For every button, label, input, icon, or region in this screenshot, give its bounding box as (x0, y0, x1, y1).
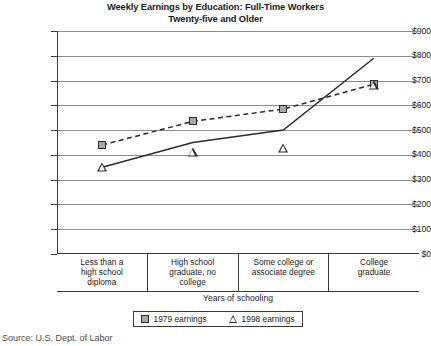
source-note: Source: U.S. Dept. of Labor (2, 333, 113, 343)
x-axis-category-label: Some college orassociate degree (252, 257, 315, 277)
legend-entry-2: 1998 earnings (229, 314, 295, 324)
x-axis-category-label: High schoolgraduate, nocollege (169, 257, 216, 288)
chart-title-line-1: Weekly Earnings by Education: Full-Time … (0, 2, 431, 14)
x-axis-category-label: Less than ahigh schooldiploma (80, 257, 123, 288)
gridline (58, 204, 420, 205)
legend-label: 1998 earnings (242, 314, 295, 324)
gridline (58, 180, 420, 181)
x-axis-category-cell-1: Less than ahigh schooldiploma (57, 254, 148, 291)
legend-triangle-icon (229, 315, 237, 323)
chart-title: Weekly Earnings by Education: Full-Time … (0, 2, 431, 25)
gridline (58, 155, 420, 156)
chart-figure: Weekly Earnings by Education: Full-Time … (0, 0, 431, 346)
gridline (58, 130, 420, 131)
legend-label: 1979 earnings (154, 314, 207, 324)
plot-area (57, 31, 419, 254)
gridline (58, 31, 420, 32)
x-axis-category-cell-3: Some college orassociate degree (239, 254, 330, 291)
gridline (58, 105, 420, 106)
legend-square-icon (141, 315, 149, 323)
legend-entry-1: 1979 earnings (141, 314, 207, 324)
x-axis-title: Years of schooling (57, 293, 419, 303)
gridline (58, 81, 420, 82)
gridline (58, 229, 420, 230)
x-axis-category-row: Less than ahigh schooldiplomaHigh school… (57, 254, 419, 292)
chart-legend: 1979 earnings1998 earnings (133, 311, 303, 327)
x-axis-category-label: Collegegraduate (358, 257, 391, 277)
x-axis-category-cell-4: Collegegraduate (329, 254, 419, 291)
x-axis-category-cell-2: High schoolgraduate, nocollege (148, 254, 239, 291)
gridline (58, 56, 420, 57)
chart-title-line-2: Twenty-five and Older (0, 14, 431, 26)
